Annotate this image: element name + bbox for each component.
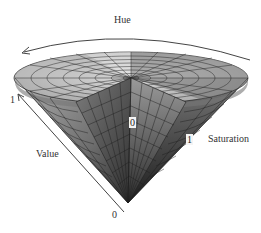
- saturation-max-label: 1: [186, 134, 193, 145]
- saturation-min-label: 0: [129, 117, 136, 128]
- saturation-label: Saturation: [208, 134, 249, 144]
- hue-label: Hue: [114, 15, 131, 25]
- value-min-label: 0: [112, 210, 117, 220]
- value-max-label: 1: [10, 95, 15, 105]
- hsv-cone-figure: Hue 1 Value 0 0 1 Saturation: [0, 0, 261, 233]
- value-label: Value: [36, 149, 59, 159]
